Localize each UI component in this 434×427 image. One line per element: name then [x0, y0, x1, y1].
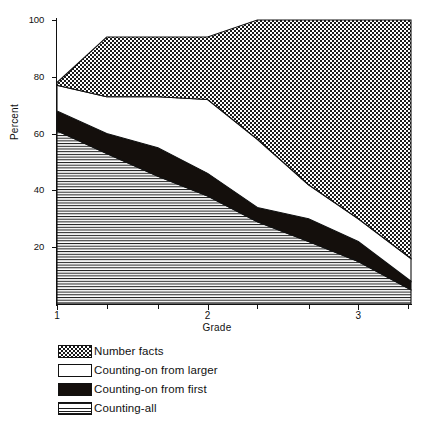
x-tick-label: 3 — [348, 310, 368, 321]
legend-swatch-checkerboard-icon — [58, 345, 92, 358]
legend-label: Counting-all — [94, 402, 157, 414]
legend-swatch-white-icon — [58, 364, 92, 377]
legend-swatch-horizontal-lines-icon — [58, 402, 92, 415]
x-tick-minor — [408, 304, 409, 309]
y-tick — [52, 20, 57, 21]
x-tick-minor — [107, 304, 108, 309]
y-tick-label: 100 — [29, 14, 44, 25]
y-tick-label: 60 — [34, 128, 44, 139]
y-tick — [52, 77, 57, 78]
legend-label: Counting-on from first — [94, 383, 207, 395]
legend-item: Counting-on from first — [58, 380, 388, 398]
legend-swatch-solid-black-icon — [58, 383, 92, 396]
legend-label: Number facts — [94, 345, 164, 357]
chart-legend: Number factsCounting-on from largerCount… — [58, 342, 388, 418]
legend-item: Counting-on from larger — [58, 361, 388, 379]
y-tick — [52, 134, 57, 135]
y-tick — [52, 190, 57, 191]
x-tick-minor — [309, 304, 310, 309]
y-tick-label: 20 — [34, 241, 44, 252]
y-tick — [52, 247, 57, 248]
y-axis-label: Percent — [9, 104, 20, 140]
legend-item: Counting-all — [58, 399, 388, 417]
x-tick-minor — [158, 304, 159, 309]
y-tick-label: 40 — [34, 184, 44, 195]
legend-label: Counting-on from larger — [94, 364, 218, 376]
x-tick-label: 2 — [198, 310, 218, 321]
x-tick-label: 1 — [47, 310, 67, 321]
x-tick-minor — [257, 304, 258, 309]
legend-item: Number facts — [58, 342, 388, 360]
chart-figure: 20406080100 123 Percent Grade Number fac… — [0, 0, 434, 427]
x-axis-label: Grade — [0, 322, 434, 333]
y-axis-line — [56, 18, 57, 306]
y-tick-label: 80 — [34, 71, 44, 82]
